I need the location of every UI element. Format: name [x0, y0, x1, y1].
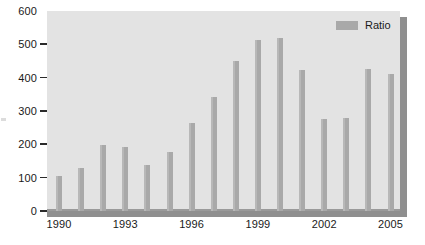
bar-highlight: [100, 145, 102, 211]
y-axis-tick-label-100: 100: [18, 171, 37, 185]
x-axis: 199019931996199920022005: [0, 217, 425, 237]
bars-layer: [47, 11, 400, 211]
y-axis-tick-100: 100: [0, 171, 47, 185]
y-axis-tick-0: 0: [0, 204, 47, 218]
y-axis-tick-mark-200: [40, 143, 47, 145]
x-axis-tick-label-1999: 1999: [245, 217, 270, 231]
y-axis-tick-200: 200: [0, 137, 47, 151]
bar-1994: [144, 165, 150, 211]
bar-highlight: [144, 165, 146, 211]
bar-1996: [189, 123, 195, 211]
bar-2001: [299, 70, 305, 211]
y-axis-tick-mark-500: [40, 43, 47, 45]
bar-highlight: [78, 168, 80, 211]
bar-1999: [255, 40, 261, 211]
y-axis-tick-mark-0: [40, 210, 47, 212]
bar-1995: [167, 152, 173, 211]
bar-highlight: [299, 70, 301, 211]
bar-1997: [211, 97, 217, 211]
legend-label-ratio: Ratio: [365, 19, 391, 31]
chart-legend: Ratio: [336, 18, 391, 32]
bar-highlight: [56, 176, 58, 211]
bar-2002: [321, 119, 327, 211]
x-axis-tick-label-2002: 2002: [312, 217, 337, 231]
y-axis-tick-mark-300: [40, 110, 47, 112]
y-axis-tick-label-600: 600: [18, 4, 37, 18]
bar-2004: [365, 69, 371, 211]
bar-highlight: [167, 152, 169, 211]
bar-1993: [122, 147, 128, 211]
bar-1990: [56, 176, 62, 211]
bar-1991: [78, 168, 84, 211]
bar-highlight: [343, 118, 345, 211]
y-axis-tick-label-500: 500: [18, 37, 37, 51]
bar-1998: [233, 61, 239, 211]
bar-highlight: [277, 38, 279, 211]
bar-highlight: [321, 119, 323, 211]
bar-highlight: [233, 61, 235, 211]
y-axis-tick-300: 300: [0, 104, 47, 118]
bar-2005: [388, 74, 394, 211]
y-axis: 0100200300400500600: [0, 0, 47, 245]
plot-area-shadow-right: [400, 17, 407, 217]
y-axis-tick-label-0: 0: [31, 204, 37, 218]
x-axis-tick-label-1993: 1993: [113, 217, 138, 231]
y-axis-tick-label-400: 400: [18, 71, 37, 85]
legend-swatch-ratio: [336, 21, 358, 30]
x-axis-tick-label-1990: 1990: [47, 217, 72, 231]
y-axis-tick-label-200: 200: [18, 137, 37, 151]
y-axis-tick-500: 500: [0, 37, 47, 51]
bar-2003: [343, 118, 349, 211]
y-axis-tick-600: 600: [0, 4, 47, 18]
y-axis-tick-label-300: 300: [18, 104, 37, 118]
x-axis-tick-label-1996: 1996: [179, 217, 204, 231]
bar-2000: [277, 38, 283, 211]
y-axis-tick-mark-400: [40, 77, 47, 79]
x-axis-tick-label-2005: 2005: [378, 217, 403, 231]
bar-highlight: [189, 123, 191, 211]
bar-highlight: [388, 74, 390, 211]
bar-highlight: [211, 97, 213, 211]
bar-highlight: [122, 147, 124, 211]
bar-highlight: [255, 40, 257, 211]
y-axis-tick-400: 400: [0, 71, 47, 85]
bar-1992: [100, 145, 106, 211]
y-axis-tick-mark-100: [40, 177, 47, 179]
bar-highlight: [365, 69, 367, 211]
bar-chart: 0100200300400500600 19901993199619992002…: [0, 0, 425, 245]
